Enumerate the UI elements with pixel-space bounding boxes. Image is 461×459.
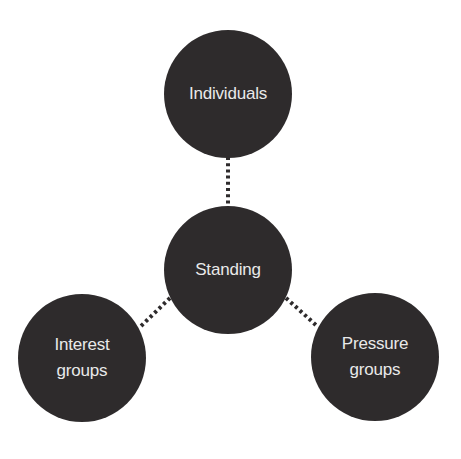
connector-center-right <box>286 298 317 326</box>
node-interest-groups-label: Interest groups <box>54 332 109 384</box>
node-interest-groups: Interest groups <box>18 294 146 422</box>
node-pressure-groups-label: Pressure groups <box>342 331 408 383</box>
node-standing: Standing <box>164 206 292 334</box>
node-standing-label: Standing <box>195 257 261 283</box>
node-individuals: Individuals <box>164 30 292 158</box>
connector-center-left <box>140 298 170 327</box>
node-pressure-groups: Pressure groups <box>311 293 439 421</box>
node-individuals-label: Individuals <box>189 81 267 107</box>
